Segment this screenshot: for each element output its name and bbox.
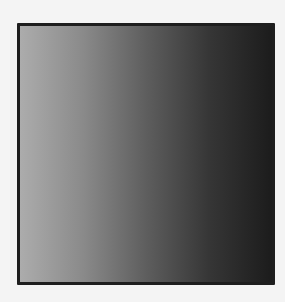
canvas-background [0,0,285,302]
gradient-square [17,23,275,285]
